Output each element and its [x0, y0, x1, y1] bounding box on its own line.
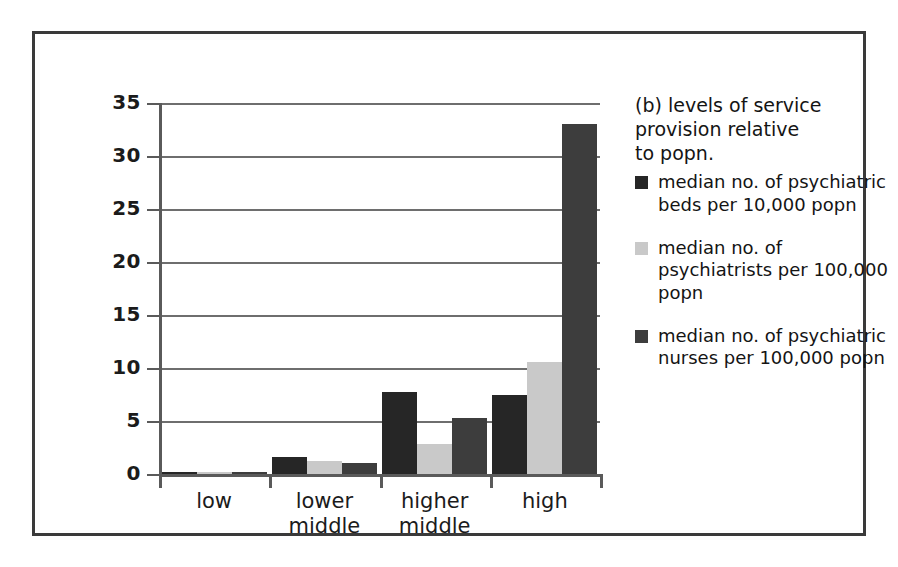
- x-tick-origin: [159, 474, 162, 488]
- y-tick-25: [147, 209, 160, 211]
- x-tick-2: [490, 474, 493, 488]
- x-axis-label-2: higher middle: [380, 489, 490, 539]
- y-tick-label-0: 0: [67, 461, 141, 485]
- bar-2-series-1: [417, 444, 452, 474]
- bar-0-series-2: [232, 472, 267, 474]
- legend-swatch-icon-1: [635, 242, 648, 255]
- y-tick-label-35: 35: [67, 90, 141, 114]
- y-tick-35: [147, 103, 160, 105]
- bar-0-series-0: [162, 472, 197, 474]
- bar-3-series-1: [527, 362, 562, 474]
- legend-entry-2: median no. of psychiatric nurses per 100…: [635, 325, 890, 370]
- x-tick-1: [380, 474, 383, 488]
- y-tick-20: [147, 262, 160, 264]
- x-tick-3: [600, 474, 603, 488]
- legend-entry-list: median no. of psychiatric beds per 10,00…: [635, 171, 890, 370]
- y-tick-15: [147, 315, 160, 317]
- legend-swatch-icon-0: [635, 176, 648, 189]
- chart-figure: 05101520253035lowlower middlehigher midd…: [0, 0, 898, 567]
- y-tick-label-10: 10: [67, 355, 141, 379]
- bar-1-series-0: [272, 457, 307, 474]
- x-axis-label-1: lower middle: [269, 489, 379, 539]
- y-tick-label-25: 25: [67, 196, 141, 220]
- bar-0-series-1: [197, 472, 232, 474]
- bar-2-series-2: [452, 418, 487, 474]
- y-tick-label-20: 20: [67, 249, 141, 273]
- x-axis-label-0: low: [159, 489, 269, 514]
- gridline-15: [159, 315, 600, 317]
- legend-entry-0: median no. of psychiatric beds per 10,00…: [635, 171, 890, 216]
- legend-label-2: median no. of psychiatric nurses per 100…: [658, 325, 890, 370]
- legend-swatch-icon-2: [635, 330, 648, 343]
- chart-legend: (b) levels of service provision relative…: [635, 94, 890, 390]
- legend-title: (b) levels of service provision relative…: [635, 94, 890, 165]
- bar-3-series-0: [492, 395, 527, 475]
- gridline-25: [159, 209, 600, 211]
- y-tick-10: [147, 368, 160, 370]
- bar-2-series-0: [382, 392, 417, 474]
- y-tick-5: [147, 421, 160, 423]
- gridline-30: [159, 156, 600, 158]
- gridline-35: [159, 103, 600, 105]
- y-tick-label-5: 5: [67, 408, 141, 432]
- bar-1-series-1: [307, 461, 342, 474]
- figure-frame: 05101520253035lowlower middlehigher midd…: [32, 31, 866, 536]
- x-tick-0: [269, 474, 272, 488]
- x-axis-label-3: high: [490, 489, 600, 514]
- bar-3-series-2: [562, 124, 597, 474]
- legend-label-0: median no. of psychiatric beds per 10,00…: [658, 171, 890, 216]
- gridline-20: [159, 262, 600, 264]
- y-tick-label-15: 15: [67, 302, 141, 326]
- y-tick-30: [147, 156, 160, 158]
- legend-label-1: median no. of psychiatrists per 100,000 …: [658, 237, 890, 305]
- legend-entry-1: median no. of psychiatrists per 100,000 …: [635, 237, 890, 305]
- bar-1-series-2: [342, 463, 377, 474]
- plot-inner: [159, 103, 600, 474]
- y-axis-spine: [159, 103, 162, 475]
- y-tick-label-30: 30: [67, 143, 141, 167]
